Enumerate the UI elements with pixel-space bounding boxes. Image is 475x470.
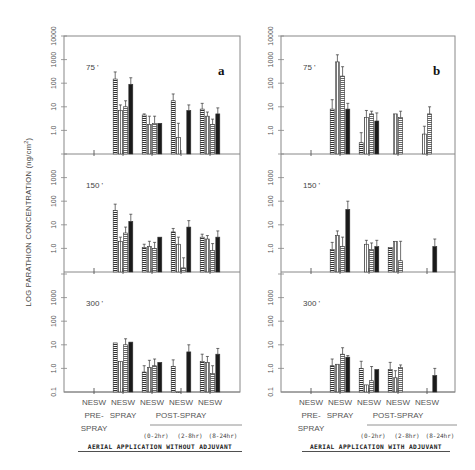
time-interval-label: (8-24hr) (209, 432, 238, 439)
bar-S (370, 381, 374, 392)
bar-N (142, 115, 146, 154)
bar-S (341, 354, 345, 392)
bar-N (330, 249, 334, 272)
y-tick-label: 100 (267, 77, 274, 89)
post-spray-label: POST-SPRAY (156, 411, 207, 420)
category-nesw-label: NESW (198, 398, 222, 407)
distance-label: 75 ' (86, 63, 99, 72)
y-tick-label: 0.1 (267, 387, 274, 397)
time-interval-label: (2-8hr) (394, 432, 419, 439)
bar-S (399, 261, 403, 272)
bar-W (375, 369, 379, 392)
y-tick-label: 10 (267, 103, 274, 111)
bar-E (335, 236, 339, 272)
bar-E (364, 385, 368, 392)
y-tick-label: 10 (267, 341, 274, 349)
y-tick-label: 1.0 (267, 363, 274, 373)
bar-N (330, 366, 334, 392)
bar-E (147, 247, 151, 272)
bar-E (422, 134, 426, 154)
bar-W (216, 114, 220, 154)
bar-E (176, 392, 180, 393)
y-tick-label: 1.0 (50, 125, 57, 135)
y-tick-label: 10 (50, 103, 57, 111)
bar-W (158, 362, 162, 392)
bar-N (388, 247, 392, 272)
panel-frame (281, 36, 455, 392)
bar-S (153, 248, 157, 272)
bar-W (129, 84, 133, 154)
bar-S (370, 249, 374, 272)
bar-W (216, 354, 220, 392)
panel-title: AERIAL APPLICATION WITH ADJUVANT (310, 443, 442, 450)
bar-S (124, 233, 128, 272)
panel-letter: a (218, 63, 225, 78)
bar-W (158, 123, 162, 154)
post-spray-label: POST-SPRAY (373, 411, 424, 420)
bar-S (211, 124, 215, 154)
distance-label: 300 ' (86, 299, 104, 308)
y-tick-label: 1000 (50, 170, 57, 186)
bar-E (118, 361, 122, 392)
y-tick-label: 1.0 (50, 363, 57, 373)
bar-S (341, 247, 345, 272)
y-tick-label: 1.0 (267, 243, 274, 253)
bar-E (147, 124, 151, 154)
bar-W (129, 342, 133, 392)
distance-label: 150 ' (86, 181, 104, 190)
y-tick-label: 1.0 (267, 125, 274, 135)
bar-N (113, 79, 117, 154)
parathion-chart: LOG PARATHION CONCENTRATION (ng/cm2)a1.0… (0, 0, 475, 470)
bar-N (171, 232, 175, 272)
pre-spray-label: PRE- (301, 411, 320, 420)
y-tick-label: 1000 (50, 52, 57, 68)
bar-S (124, 107, 128, 154)
y-tick-label: 10 (50, 221, 57, 229)
bar-E (364, 244, 368, 272)
y-tick-label: 10000 (50, 26, 57, 46)
time-interval-label: (8-24hr) (426, 432, 455, 439)
bar-W (346, 209, 350, 272)
y-tick-label: 1000 (267, 290, 274, 306)
bar-N (142, 247, 146, 272)
bar-S (399, 367, 403, 392)
bar-E (393, 378, 397, 392)
y-tick-label: 1000 (50, 290, 57, 306)
category-nesw-label: NESW (415, 398, 439, 407)
bar-W (433, 247, 437, 272)
bar-W (187, 227, 191, 272)
bar-N (113, 211, 117, 272)
bar-E (118, 241, 122, 272)
bar-N (171, 367, 175, 392)
time-interval-label: (0-2hr) (143, 432, 168, 439)
bar-E (364, 118, 368, 154)
y-tick-label: 100 (50, 77, 57, 89)
distance-label: 75 ' (303, 63, 316, 72)
y-tick-label: 100 (267, 195, 274, 207)
bar-S (153, 123, 157, 154)
time-interval-label: (0-2hr) (360, 432, 385, 439)
category-nesw-label: NESW (82, 398, 106, 407)
y-axis-label: LOG PARATHION CONCENTRATION (ng/cm2) (23, 137, 33, 306)
bar-S (153, 366, 157, 392)
time-interval-label: (2-8hr) (177, 432, 202, 439)
bar-W (187, 110, 191, 154)
y-tick-label: 1000 (267, 52, 274, 68)
bar-E (205, 362, 209, 392)
bar-N (113, 343, 117, 392)
bar-E (393, 241, 397, 272)
bar-S (341, 76, 345, 154)
bar-N (388, 369, 392, 392)
bar-N (359, 368, 363, 392)
bar-S (182, 268, 186, 272)
bar-E (205, 116, 209, 154)
y-tick-label: 10 (267, 221, 274, 229)
panel-frame (64, 36, 240, 392)
bar-E (147, 367, 151, 392)
bar-W (158, 237, 162, 272)
bar-E (335, 364, 339, 392)
spray-label: SPRAY (110, 411, 137, 420)
panel-title: AERIAL APPLICATION WITHOUT ADJUVANT (88, 443, 232, 450)
bar-S (399, 118, 403, 154)
bar-N (200, 361, 204, 392)
